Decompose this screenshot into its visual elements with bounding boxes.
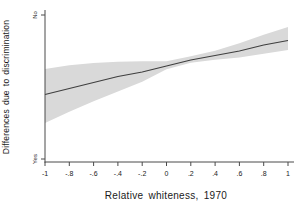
x-tick-label: -.8 — [65, 170, 73, 177]
x-tick-label: 1 — [286, 170, 290, 177]
x-axis-title: Relative whiteness, 1970 — [105, 190, 228, 201]
x-tick-label: .2 — [188, 170, 194, 177]
confidence-band — [45, 27, 288, 123]
x-tick-label: 0 — [165, 170, 169, 177]
chart-figure: -1-.8-.6-.4-.20.2.4.6.81YesNo Relative w… — [0, 0, 303, 212]
x-tick-label: .4 — [212, 170, 218, 177]
x-tick-label: -.2 — [138, 170, 146, 177]
y-tick-label: No — [32, 11, 38, 19]
x-tick-label: .8 — [261, 170, 267, 177]
chart-layer: -1-.8-.6-.4-.20.2.4.6.81YesNo — [32, 10, 294, 177]
x-tick-label: -1 — [42, 170, 48, 177]
x-tick-label: -.6 — [90, 170, 98, 177]
y-axis-title: Differences due to discrimination — [1, 20, 11, 154]
x-tick-label: .6 — [236, 170, 242, 177]
plot-area: -1-.8-.6-.4-.20.2.4.6.81YesNo Relative w… — [0, 0, 303, 212]
y-tick-label: Yes — [32, 154, 38, 164]
x-tick-label: -.4 — [114, 170, 122, 177]
